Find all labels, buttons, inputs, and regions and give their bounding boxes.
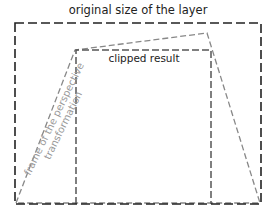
clipped-result-label: clipped result (77, 52, 211, 64)
original-size-label: original size of the layer (0, 3, 276, 17)
clipped-result-rect (76, 50, 211, 204)
